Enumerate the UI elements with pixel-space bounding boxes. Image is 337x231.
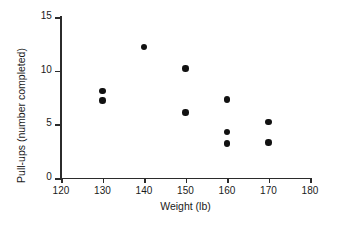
y-tick-0 [55, 178, 61, 180]
plot-area [61, 17, 310, 178]
y-tick-label-10: 10 [28, 64, 52, 75]
data-point [224, 96, 231, 103]
y-axis-title: Pull-ups (number completed) [14, 0, 28, 231]
x-tick-label-120: 120 [41, 185, 81, 196]
x-tick-label-130: 130 [83, 185, 123, 196]
data-point [224, 140, 231, 147]
data-point [182, 65, 189, 72]
y-tick-label-15: 15 [28, 10, 52, 21]
data-point [99, 97, 106, 104]
x-axis-title: Weight (lb) [61, 200, 310, 212]
data-point [99, 88, 106, 95]
x-tick-120 [61, 178, 63, 183]
y-tick-label-0: 0 [28, 171, 52, 182]
x-tick-180 [310, 178, 312, 183]
data-point [265, 139, 272, 146]
x-tick-label-160: 160 [207, 185, 247, 196]
x-tick-170 [269, 178, 271, 183]
data-point [224, 129, 231, 136]
x-tick-130 [103, 178, 105, 183]
data-point [141, 44, 148, 51]
x-tick-label-170: 170 [249, 185, 289, 196]
x-tick-label-140: 140 [124, 185, 164, 196]
scatter-plot-figure: 120130140150160170180 051015 Weight (lb)… [0, 0, 337, 231]
x-tick-label-180: 180 [290, 185, 330, 196]
y-tick-label-5: 5 [28, 117, 52, 128]
x-tick-160 [227, 178, 229, 183]
data-point [182, 109, 189, 116]
data-point [265, 119, 272, 126]
x-tick-150 [186, 178, 188, 183]
x-tick-140 [144, 178, 146, 183]
x-tick-label-150: 150 [166, 185, 206, 196]
